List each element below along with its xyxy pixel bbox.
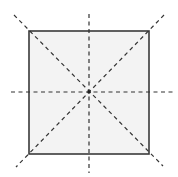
center-point xyxy=(87,90,91,94)
symmetry-diagram xyxy=(0,0,178,177)
